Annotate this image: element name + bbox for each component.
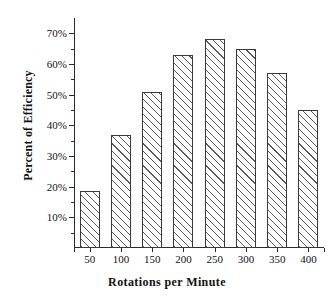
y-axis-minor-tick: [71, 171, 74, 172]
y-axis-title: Percent of Efficiency: [21, 36, 36, 216]
bar-chart: Percent of Efficiency 10%20%30%40%50%60%…: [0, 0, 334, 299]
y-axis-tick-label: 40%: [47, 119, 67, 131]
y-axis-minor-tick: [71, 202, 74, 203]
y-axis-tick: [69, 125, 74, 126]
x-axis-tick-label: 350: [269, 253, 286, 265]
bar: [142, 92, 162, 248]
x-axis-tick: [215, 248, 216, 252]
bar: [80, 191, 100, 248]
y-axis-minor-tick: [71, 79, 74, 80]
y-axis-tick-label: 50%: [47, 89, 67, 101]
y-axis-minor-tick: [71, 233, 74, 234]
x-axis-tick-label: 150: [144, 253, 161, 265]
x-axis-tick: [277, 248, 278, 252]
x-axis-tick: [121, 248, 122, 252]
x-axis-title: Rotations per Minute: [0, 275, 334, 290]
y-axis-minor-tick: [71, 110, 74, 111]
y-axis-tick: [69, 156, 74, 157]
y-axis-tick-label: 10%: [47, 211, 67, 223]
y-axis-minor-tick: [71, 141, 74, 142]
y-axis-minor-tick: [71, 49, 74, 50]
bar: [236, 49, 256, 248]
x-axis-tick-label: 250: [206, 253, 223, 265]
y-axis-tick-label: 20%: [47, 181, 67, 193]
bar: [298, 110, 318, 248]
x-axis-edge-tick: [74, 248, 75, 252]
bar: [267, 73, 287, 248]
x-axis-tick-label: 50: [84, 253, 95, 265]
x-axis-tick: [152, 248, 153, 252]
y-axis-tick-label: 60%: [47, 58, 67, 70]
y-axis-line: [74, 18, 75, 248]
x-axis-tick-label: 400: [300, 253, 317, 265]
y-axis-tick-label: 70%: [47, 27, 67, 39]
bar: [205, 39, 225, 248]
bar: [173, 55, 193, 248]
y-axis-tick: [69, 217, 74, 218]
y-axis-tick: [69, 33, 74, 34]
y-axis-tick-label: 30%: [47, 150, 67, 162]
bar: [111, 135, 131, 248]
y-axis-tick: [69, 95, 74, 96]
x-axis-edge-tick: [324, 248, 325, 252]
x-axis-tick: [90, 248, 91, 252]
plot-area: 10%20%30%40%50%60%70%5010015020025030035…: [74, 18, 324, 248]
x-axis-tick: [183, 248, 184, 252]
x-axis-tick-label: 300: [238, 253, 255, 265]
x-axis-tick-label: 100: [113, 253, 130, 265]
x-axis-tick-label: 200: [175, 253, 192, 265]
y-axis-tick: [69, 64, 74, 65]
y-axis-tick: [69, 187, 74, 188]
x-axis-tick: [246, 248, 247, 252]
x-axis-tick: [308, 248, 309, 252]
